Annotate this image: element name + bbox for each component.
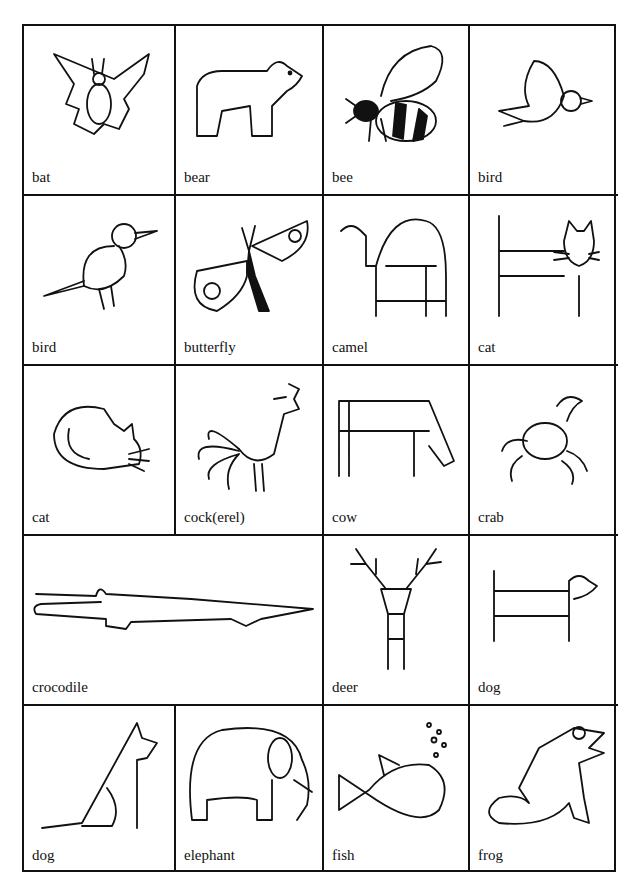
card-fish: fish (324, 706, 470, 872)
card-crocodile: crocodile (24, 536, 324, 706)
card-label: cock(erel) (184, 509, 245, 526)
card-label: cow (332, 509, 357, 526)
card-cat-peeking: cat (470, 196, 618, 366)
card-camel: camel (324, 196, 470, 366)
camel-icon (336, 216, 456, 316)
frog-icon (479, 718, 609, 833)
card-label: frog (478, 847, 503, 864)
dachshund-icon (489, 571, 599, 641)
sleeping-cat-icon (44, 399, 154, 474)
card-label: bat (32, 169, 50, 186)
card-label: crocodile (32, 679, 88, 696)
butterfly-icon (187, 216, 312, 316)
card-frog: frog (470, 706, 618, 872)
card-bird-flying: bird (470, 26, 618, 196)
crocodile-icon (31, 584, 316, 629)
perched-bird-icon (39, 221, 159, 311)
bee-icon (341, 41, 451, 151)
card-cat-sleeping: cat (24, 366, 176, 536)
card-label: camel (332, 339, 368, 356)
card-label: fish (332, 847, 355, 864)
flying-bird-icon (494, 56, 594, 136)
card-label: cat (32, 509, 49, 526)
card-label: bird (32, 339, 56, 356)
card-dog-sitting: dog (24, 706, 176, 872)
card-butterfly: butterfly (176, 196, 324, 366)
card-bear: bear (176, 26, 324, 196)
card-rooster: cock(erel) (176, 366, 324, 536)
card-label: dog (32, 847, 55, 864)
card-dog-dachshund: dog (470, 536, 618, 706)
card-deer: deer (324, 536, 470, 706)
card-bat: bat (24, 26, 176, 196)
bear-icon (192, 51, 307, 141)
card-label: elephant (184, 847, 235, 864)
card-crab: crab (470, 366, 618, 536)
deer-icon (346, 544, 446, 669)
card-label: bird (478, 169, 502, 186)
bat-icon (44, 49, 154, 144)
crab-icon (497, 386, 592, 486)
elephant-icon (182, 720, 317, 830)
card-label: butterfly (184, 339, 236, 356)
card-bird-perched: bird (24, 196, 176, 366)
card-label: crab (478, 509, 504, 526)
card-label: bear (184, 169, 210, 186)
card-label: deer (332, 679, 358, 696)
card-elephant: elephant (176, 706, 324, 872)
animal-flashcard-grid: bat bear bee bird bird (22, 24, 616, 872)
rooster-icon (194, 379, 304, 494)
sitting-dog-icon (37, 718, 162, 833)
cow-icon (334, 396, 459, 476)
fish-icon (334, 720, 459, 830)
card-bee: bee (324, 26, 470, 196)
cat-peeking-icon (489, 216, 599, 316)
card-label: dog (478, 679, 501, 696)
card-label: bee (332, 169, 353, 186)
card-cow: cow (324, 366, 470, 536)
card-label: cat (478, 339, 495, 356)
